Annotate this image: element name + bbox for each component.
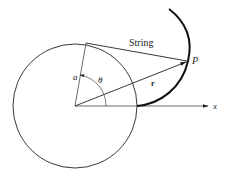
position-vector <box>75 62 186 106</box>
string-label: String <box>129 37 153 48</box>
theta-label: θ <box>98 75 103 85</box>
vector-r-label: r <box>151 79 155 88</box>
point-p-label: P <box>191 55 198 66</box>
involute-curve <box>137 9 190 106</box>
involute-diagram: String P a θ r x <box>0 0 230 179</box>
x-axis-label: x <box>212 101 217 111</box>
radius-a-label: a <box>73 72 78 82</box>
